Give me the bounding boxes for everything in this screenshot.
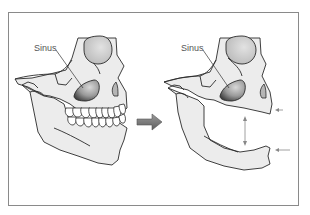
right-arrow-icon xyxy=(137,114,162,130)
sinus-label-right: Sinus xyxy=(181,43,204,53)
skull-without-teeth: Sinus xyxy=(164,36,290,170)
orbit xyxy=(84,36,112,64)
left-arrow-icon-upper xyxy=(275,108,283,112)
left-arrow-icon-lower xyxy=(275,148,290,152)
vertical-double-arrow-icon xyxy=(243,116,247,146)
orbit xyxy=(226,36,256,64)
skull-diagram: Sinus Sinus xyxy=(0,0,310,215)
sinus-label-left: Sinus xyxy=(34,43,57,53)
skull-with-teeth: Sinus xyxy=(15,36,127,165)
